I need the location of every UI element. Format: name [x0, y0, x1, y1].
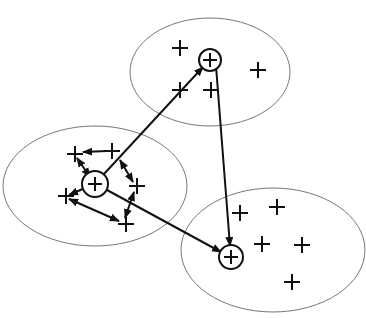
movement-arrows — [69, 66, 230, 252]
data-point-plus-icon — [269, 199, 285, 215]
data-point-plus-icon — [250, 62, 266, 78]
data-point-plus-icon — [254, 236, 270, 252]
data-point-plus-icon — [58, 188, 74, 204]
data-point-plus-icon — [284, 274, 300, 290]
data-point-plus-icon — [294, 237, 310, 253]
data-point-plus-icon — [118, 216, 134, 232]
data-point-plus-icon — [172, 40, 188, 56]
cluster-ellipses — [3, 18, 365, 312]
data-points — [58, 40, 310, 290]
data-point-plus-icon — [232, 205, 248, 221]
data-point-plus-icon — [104, 143, 120, 159]
arrow — [104, 67, 203, 174]
centroids — [82, 49, 243, 269]
cluster-diagram — [0, 0, 366, 318]
arrow — [83, 151, 107, 152]
arrow — [216, 66, 230, 246]
arrow — [69, 199, 119, 221]
arrow — [120, 160, 133, 182]
data-point-plus-icon — [67, 146, 83, 162]
